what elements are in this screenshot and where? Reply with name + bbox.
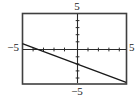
x-axis-max-label: 5 <box>129 42 138 53</box>
x-axis-min-label: −5 <box>1 42 19 53</box>
graph-figure: 5 −5 5 −5 <box>0 0 138 101</box>
y-axis-min-label: −5 <box>68 86 86 97</box>
y-axis-max-label: 5 <box>71 1 83 12</box>
